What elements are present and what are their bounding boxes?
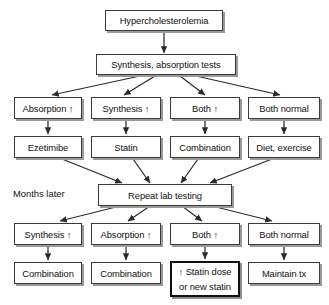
- node-r2-both-up[interactable]: Both ↑: [170, 223, 240, 245]
- connector-ezetimibe-to-repeat: [62, 159, 122, 183]
- node-synthesis-absorption-tests[interactable]: Synthesis, absorption tests: [96, 54, 236, 75]
- node-tx-diet-exercise[interactable]: Diet, exercise: [248, 136, 320, 158]
- node-final-combination-left[interactable]: Combination: [14, 262, 82, 284]
- node-final-combination-mid[interactable]: Combination: [91, 262, 161, 284]
- connector-tests-to-both-up: [180, 76, 205, 95]
- stage-label-months-later: Months later: [13, 188, 65, 199]
- connector-tests-to-both-normal: [196, 76, 280, 95]
- node-repeat-lab-testing[interactable]: Repeat lab testing: [98, 184, 232, 206]
- node-r1-both-normal[interactable]: Both normal: [248, 97, 320, 119]
- node-r2-both-normal[interactable]: Both normal: [248, 223, 320, 245]
- node-tx-statin[interactable]: Statin: [91, 136, 161, 158]
- node-final-statin-dose[interactable]: ↑ Statin dose or new statin: [170, 261, 240, 297]
- node-tx-combination[interactable]: Combination: [170, 136, 240, 158]
- node-tx-ezetimibe[interactable]: Ezetimibe: [14, 136, 82, 158]
- connector-repeat-to-both-up: [182, 206, 202, 221]
- connector-combination-to-repeat: [181, 159, 198, 183]
- connector-tests-to-synthesis: [124, 76, 155, 95]
- connector-statin-to-repeat: [133, 159, 150, 183]
- node-r1-absorption-up[interactable]: Absorption ↑: [14, 97, 82, 119]
- node-r2-synthesis-up[interactable]: Synthesis ↑: [14, 223, 82, 245]
- connector-repeat-to-synthesis: [60, 206, 120, 221]
- node-final-maintain-tx[interactable]: Maintain tx: [248, 262, 320, 284]
- connector-tests-to-absorption: [52, 76, 140, 95]
- connector-diet-to-repeat: [210, 159, 272, 183]
- node-hypercholesterolemia[interactable]: Hypercholesterolemia: [105, 10, 223, 31]
- node-r2-absorption-up[interactable]: Absorption ↑: [91, 223, 161, 245]
- node-r1-synthesis-up[interactable]: Synthesis ↑: [91, 97, 161, 119]
- flowchart-canvas: Hypercholesterolemia Synthesis, absorpti…: [0, 0, 329, 305]
- node-r1-both-up[interactable]: Both ↑: [170, 97, 240, 119]
- connector-repeat-to-absorption: [128, 206, 150, 221]
- connector-repeat-to-both-normal: [212, 206, 272, 221]
